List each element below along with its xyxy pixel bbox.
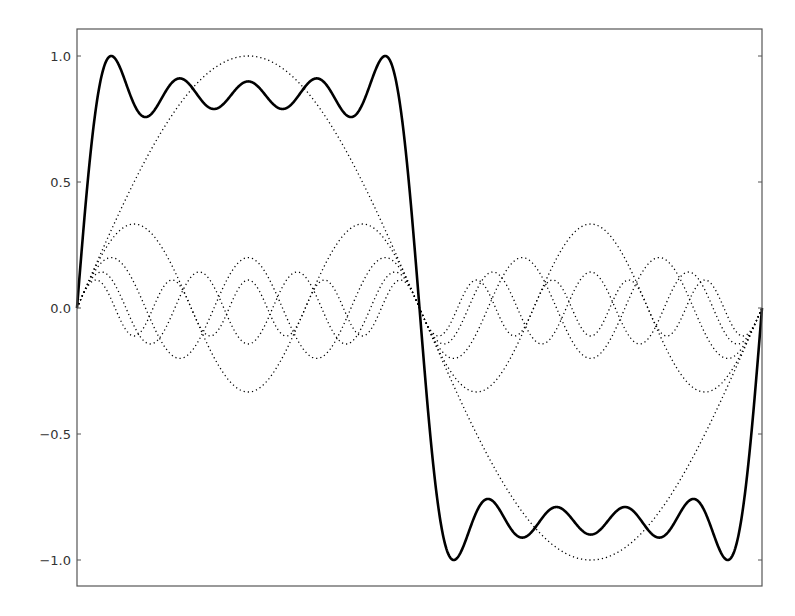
y-axis-ticks: 1.00.50.0−0.5−1.0 bbox=[39, 49, 762, 568]
y-tick-label: −1.0 bbox=[39, 553, 71, 568]
partial-sum-line bbox=[77, 56, 762, 560]
y-tick-label: −0.5 bbox=[39, 427, 71, 442]
y-tick-label: 0.0 bbox=[50, 301, 71, 316]
y-tick-label: 0.5 bbox=[50, 175, 71, 190]
chart: 1.00.50.0−0.5−1.0 bbox=[0, 0, 795, 616]
y-tick-label: 1.0 bbox=[50, 49, 71, 64]
